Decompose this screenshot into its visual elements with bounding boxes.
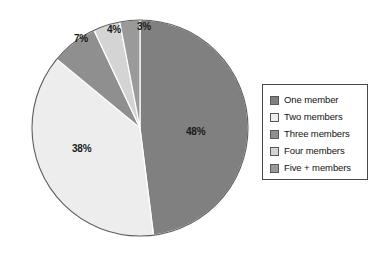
legend-swatch-icon-five-plus-members xyxy=(270,164,279,173)
legend-item-five-plus-members: Five + members xyxy=(270,160,361,176)
legend-label-two-members: Two members xyxy=(284,112,343,122)
legend-swatch-icon-four-members xyxy=(270,147,279,156)
chart-legend: One member Two members Three members Fou… xyxy=(262,84,368,180)
slice-label-three-members: 7% xyxy=(74,33,88,44)
legend-label-one-member: One member xyxy=(284,95,338,105)
pie-slices-group xyxy=(32,20,248,236)
legend-item-four-members: Four members xyxy=(270,143,361,159)
legend-item-three-members: Three members xyxy=(270,126,361,142)
pie-chart-figure: 48% 38% 7% 4% 3% One member Two members … xyxy=(0,0,380,262)
legend-swatch-icon-one-member xyxy=(270,96,279,105)
slice-label-one-member: 48% xyxy=(186,126,205,137)
legend-swatch-icon-three-members xyxy=(270,130,279,139)
legend-swatch-icon-two-members xyxy=(270,113,279,122)
legend-label-five-plus-members: Five + members xyxy=(284,163,351,173)
legend-label-three-members: Three members xyxy=(284,129,350,139)
slice-label-two-members: 38% xyxy=(72,143,91,154)
legend-item-two-members: Two members xyxy=(270,109,361,125)
slice-label-five-plus-members: 3% xyxy=(137,21,151,32)
legend-item-one-member: One member xyxy=(270,92,361,108)
legend-label-four-members: Four members xyxy=(284,146,345,156)
slice-label-four-members: 4% xyxy=(107,24,121,35)
